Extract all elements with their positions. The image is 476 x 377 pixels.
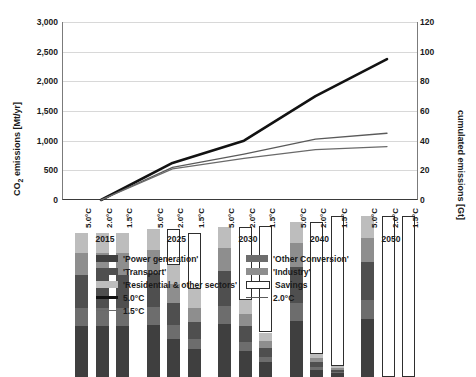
x-year-label: 2030 <box>213 234 283 244</box>
legend-swatch <box>96 255 118 262</box>
bar-segment <box>239 342 252 351</box>
x-year-label: 2040 <box>285 234 355 244</box>
legend-label: 'Power generation' <box>123 254 198 264</box>
y-tick-left: 500 <box>14 166 58 174</box>
gridline <box>63 52 417 53</box>
legend-item[interactable]: 1.5°C <box>96 306 246 316</box>
legend-swatch <box>246 255 268 262</box>
bar-segment <box>147 325 160 377</box>
legend-label: 2.0°C <box>273 293 294 303</box>
y-tick-left: 2,000 <box>14 77 58 85</box>
bar-segment <box>310 367 323 370</box>
bar-segment <box>331 366 344 368</box>
x-scenario-label: 2.0°C <box>249 208 257 228</box>
x-scenario-label: 5.0°C <box>228 208 236 228</box>
bar-segment <box>75 275 88 308</box>
legend-row: 'Power generation''Other Conversion' <box>96 252 396 265</box>
gridline <box>63 111 417 112</box>
bar-segment <box>188 349 201 377</box>
gridline <box>63 141 417 142</box>
bar-segment <box>331 370 344 372</box>
bar-segment <box>239 351 252 377</box>
chart-legend: 'Power generation''Other Conversion''Tra… <box>96 252 396 317</box>
legend-label: 'Other Conversion' <box>273 254 349 264</box>
gridline <box>63 200 417 201</box>
gridline <box>63 22 417 23</box>
bar-segment <box>167 339 180 377</box>
bar-segment <box>310 370 323 377</box>
x-scenario-label: 2.0°C <box>320 208 328 228</box>
legend-label: 'Transport' <box>123 267 166 277</box>
y-tick-left: 1,000 <box>14 137 58 145</box>
legend-line-marker <box>96 310 118 311</box>
y-tick-right: 120 <box>420 18 460 26</box>
y-axis-left-title: CO2 emissions [Mt/yr] <box>12 102 24 196</box>
legend-swatch <box>96 281 118 288</box>
legend-item[interactable]: 'Power generation' <box>96 254 246 264</box>
bar-segment <box>331 372 344 373</box>
x-scenario-label: 2.0°C <box>177 208 185 228</box>
legend-line-marker <box>96 296 118 299</box>
y-axis-left-title-sub: 2 <box>17 179 24 183</box>
legend-item[interactable]: Savings <box>246 280 396 290</box>
legend-swatch <box>246 268 268 275</box>
bar-segment <box>310 362 323 367</box>
y-tick-left: 1,500 <box>14 107 58 115</box>
legend-item[interactable]: 'Other Conversion' <box>246 254 396 264</box>
x-scenario-label: 2.0°C <box>106 208 114 228</box>
y-axis-left-title-pre: CO <box>12 183 22 197</box>
legend-swatch <box>96 268 118 275</box>
legend-box-marker <box>246 281 270 289</box>
bar-segment <box>310 354 323 358</box>
legend-row: 'Transport''Industry' <box>96 265 396 278</box>
gridline <box>63 81 417 82</box>
bar-segment <box>218 324 231 377</box>
legend-line-marker <box>246 297 268 298</box>
bar-segment <box>331 373 344 377</box>
x-scenario-label: 1.5°C <box>341 208 349 228</box>
bar-segment <box>188 322 201 339</box>
x-scenario-label: 5.0°C <box>300 208 308 228</box>
bar-segment <box>116 326 129 377</box>
bar-segment <box>290 321 303 377</box>
bar-segment <box>259 362 272 377</box>
legend-row: 5.0°C2.0°C <box>96 291 396 304</box>
y-tick-right: 0 <box>420 196 460 204</box>
bar-segment <box>167 325 180 339</box>
legend-item[interactable]: 'Transport' <box>96 267 246 277</box>
y-tick-left: 0 <box>14 196 58 204</box>
legend-label: 1.5°C <box>123 306 144 316</box>
x-scenario-label: 5.0°C <box>371 208 379 228</box>
y-tick-right: 60 <box>420 107 460 115</box>
plot-area <box>62 22 418 200</box>
x-scenario-label: 2.0°C <box>392 208 400 228</box>
legend-label: 'Industry' <box>273 267 311 277</box>
x-scenario-label: 1.5°C <box>198 208 206 228</box>
gridline <box>63 170 417 171</box>
bar-segment <box>96 326 109 377</box>
legend-label: Savings <box>275 280 308 290</box>
x-year-label: 2015 <box>70 234 140 244</box>
legend-item[interactable]: 2.0°C <box>246 293 396 303</box>
x-scenario-label: 1.5°C <box>412 208 420 228</box>
y-tick-left: 2,500 <box>14 48 58 56</box>
legend-label: 5.0°C <box>123 293 144 303</box>
y-tick-right: 80 <box>420 77 460 85</box>
legend-item[interactable]: 'Industry' <box>246 267 396 277</box>
bar-segment <box>259 333 272 341</box>
x-year-label: 2050 <box>356 234 426 244</box>
y-tick-left: 3,000 <box>14 18 58 26</box>
bar-segment <box>259 357 272 362</box>
bar-segment <box>310 358 323 362</box>
x-scenario-label: 1.5°C <box>269 208 277 228</box>
bar-segment <box>188 339 201 349</box>
bar-segment <box>75 253 88 275</box>
legend-item[interactable]: 'Residential & other sectors' <box>96 280 246 290</box>
y-tick-right: 100 <box>420 48 460 56</box>
bar-segment <box>361 319 374 377</box>
legend-item[interactable]: 5.0°C <box>96 293 246 303</box>
legend-row: 'Residential & other sectors'Savings <box>96 278 396 291</box>
bar-segment <box>75 308 88 326</box>
bar-segment <box>239 326 252 342</box>
